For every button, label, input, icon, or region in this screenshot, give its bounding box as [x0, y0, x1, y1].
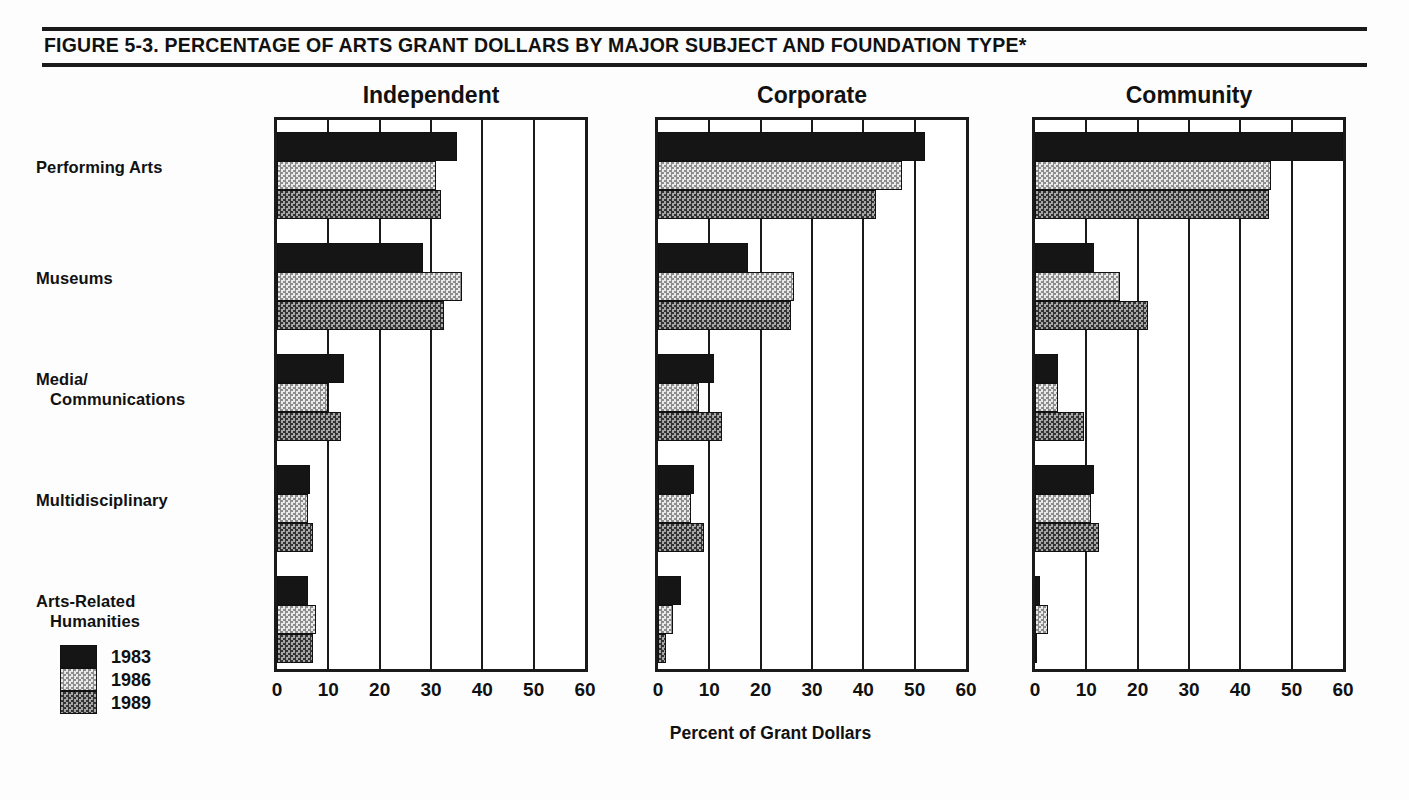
chart-legend: 198319861989: [60, 645, 151, 714]
category-label-line: Multidisciplinary: [36, 490, 262, 511]
category-label: Arts-RelatedHumanities: [36, 591, 262, 632]
title-rule-bottom: [42, 63, 1367, 67]
figure-container: FIGURE 5-3. PERCENTAGE OF ARTS GRANT DOL…: [0, 0, 1409, 800]
category-label-line: Humanities: [36, 611, 262, 632]
x-tick-label: 60: [1332, 679, 1353, 701]
x-axis-title: Percent of Grant Dollars: [0, 723, 1409, 744]
bar: [277, 301, 444, 330]
legend-swatch: [60, 691, 97, 714]
legend-item: 1983: [60, 645, 151, 668]
bar: [1035, 243, 1094, 272]
bar: [658, 243, 748, 272]
bar: [1035, 412, 1084, 441]
bar: [1035, 523, 1099, 552]
bar: [277, 605, 316, 634]
x-tick-label: 0: [1030, 679, 1041, 701]
panel-community: Community0102030405060: [1032, 84, 1346, 705]
category-label-line: Performing Arts: [36, 157, 262, 178]
panel-title: Community: [1032, 84, 1346, 107]
legend-item: 1986: [60, 668, 151, 691]
legend-swatch: [60, 645, 97, 668]
bar: [1035, 465, 1094, 494]
bar: [658, 576, 681, 605]
gridline-50: [533, 120, 535, 669]
bar: [658, 412, 722, 441]
category-label-line: Arts-Related: [36, 591, 262, 612]
category-label-line: Museums: [36, 268, 262, 289]
category-label: Multidisciplinary: [36, 490, 262, 511]
bar: [658, 383, 699, 412]
bar: [658, 190, 876, 219]
category-label: Performing Arts: [36, 157, 262, 178]
panel-corporate: Corporate0102030405060: [655, 84, 969, 705]
plot-area: [655, 117, 969, 672]
bar: [277, 576, 308, 605]
panel-independent: Independent0102030405060: [274, 84, 588, 705]
bar: [1035, 301, 1148, 330]
bar: [277, 465, 310, 494]
bar: [658, 605, 673, 634]
x-tick-label: 20: [750, 679, 771, 701]
legend-item: 1989: [60, 691, 151, 714]
bar: [658, 272, 794, 301]
bar: [658, 634, 666, 663]
bar: [658, 161, 902, 190]
x-tick-label: 30: [1178, 679, 1199, 701]
x-tick-label: 0: [272, 679, 283, 701]
legend-label: 1986: [111, 671, 151, 689]
bar: [277, 494, 308, 523]
x-tick-label: 60: [955, 679, 976, 701]
x-tick-label: 40: [472, 679, 493, 701]
x-axis-ticks: 0102030405060: [1032, 679, 1346, 705]
plot-area: [1032, 117, 1346, 672]
x-tick-label: 30: [420, 679, 441, 701]
bar: [1035, 190, 1269, 219]
bar: [1035, 494, 1091, 523]
bar: [277, 272, 462, 301]
gridline-40: [481, 120, 483, 669]
legend-label: 1983: [111, 648, 151, 666]
x-tick-label: 50: [523, 679, 544, 701]
bar: [1035, 161, 1271, 190]
bar: [277, 412, 341, 441]
x-tick-label: 0: [653, 679, 664, 701]
x-tick-label: 20: [1127, 679, 1148, 701]
bar: [277, 132, 457, 161]
legend-label: 1989: [111, 694, 151, 712]
bar: [277, 523, 313, 552]
bar: [277, 354, 344, 383]
x-tick-label: 10: [1076, 679, 1097, 701]
bar: [658, 523, 704, 552]
bar: [1035, 605, 1048, 634]
x-tick-label: 50: [904, 679, 925, 701]
bar: [658, 465, 694, 494]
x-axis-ticks: 0102030405060: [274, 679, 588, 705]
bar: [658, 132, 925, 161]
bar: [277, 634, 313, 663]
bar: [277, 161, 436, 190]
x-axis-ticks: 0102030405060: [655, 679, 969, 705]
plot-area: [274, 117, 588, 672]
x-tick-label: 40: [1230, 679, 1251, 701]
category-label-line: Communications: [36, 389, 262, 410]
category-label: Media/Communications: [36, 369, 262, 410]
panel-title: Corporate: [655, 84, 969, 107]
panel-title: Independent: [274, 84, 588, 107]
figure-title-block: FIGURE 5-3. PERCENTAGE OF ARTS GRANT DOL…: [42, 27, 1367, 67]
bar: [1035, 132, 1343, 161]
x-tick-label: 50: [1281, 679, 1302, 701]
bar: [277, 383, 328, 412]
x-tick-label: 20: [369, 679, 390, 701]
bar: [658, 494, 691, 523]
bar: [277, 190, 441, 219]
gridline-50: [1291, 120, 1293, 669]
gridline-50: [914, 120, 916, 669]
bar: [1035, 576, 1040, 605]
bar: [1035, 634, 1037, 663]
legend-swatch: [60, 668, 97, 691]
bar: [1035, 354, 1058, 383]
bar: [658, 354, 714, 383]
x-tick-label: 10: [699, 679, 720, 701]
bar: [277, 243, 423, 272]
x-tick-label: 10: [318, 679, 339, 701]
